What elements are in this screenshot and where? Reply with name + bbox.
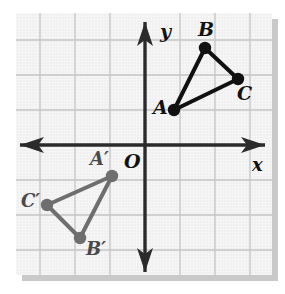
- vertex-point-b: [199, 42, 211, 54]
- vertex-label-a: A: [153, 98, 168, 117]
- vertex-label-b-prime: B′: [86, 240, 106, 258]
- vertex-label-c: C: [237, 84, 252, 103]
- diagram-svg: [0, 0, 285, 294]
- vertex-label-b: B: [198, 20, 214, 39]
- vertex-point-c-prime: [41, 199, 53, 211]
- y-axis-label: y: [160, 22, 171, 41]
- vertex-point-a-prime: [106, 170, 118, 182]
- vertex-label-a-prime: A′: [90, 150, 109, 168]
- figure-canvas: A B C A′ B′ C′ O y x: [0, 0, 285, 294]
- x-axis-label: x: [252, 156, 263, 174]
- triangle-abc: [168, 42, 244, 116]
- vertex-point-a: [168, 104, 180, 116]
- axis-group: [20, 22, 265, 272]
- triangle-a-prime-b-prime-c-prime: [41, 170, 118, 244]
- triangle-abc-outline: [174, 48, 238, 110]
- vertex-point-b-prime: [74, 232, 86, 244]
- origin-label: O: [124, 152, 141, 171]
- vertex-label-c-prime: C′: [21, 192, 40, 210]
- triangle-a-prime-outline: [47, 176, 112, 238]
